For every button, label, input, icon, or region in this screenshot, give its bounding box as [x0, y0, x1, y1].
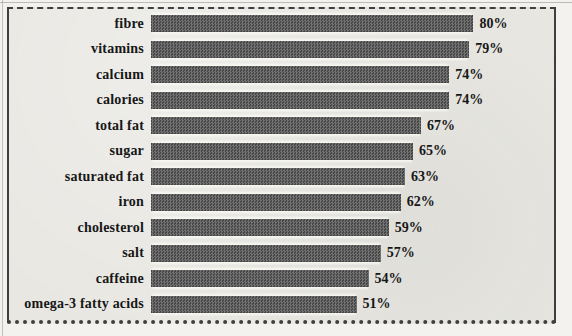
value-label: 54%: [375, 272, 403, 286]
chart-row: calcium 74%: [9, 62, 554, 88]
value-label: 79%: [475, 42, 503, 56]
bar-track: 57%: [151, 241, 554, 267]
scan-artifact-left-line: [2, 0, 3, 336]
chart-row: vitamins 79%: [9, 37, 554, 63]
bar-track: 63%: [151, 164, 554, 190]
bar-track: 51%: [151, 292, 554, 318]
bar: [151, 194, 401, 211]
bar: [151, 41, 469, 58]
category-label: calories: [9, 93, 151, 107]
bar-track: 62%: [151, 190, 554, 216]
chart-row: fibre 80%: [9, 11, 554, 37]
bar-track: 74%: [151, 62, 554, 88]
scan-artifact-top-line: [0, 2, 572, 3]
bar: [151, 168, 405, 185]
category-label: omega-3 fatty acids: [9, 297, 151, 311]
bar: [151, 92, 449, 109]
bar-track: 79%: [151, 37, 554, 63]
bar: [151, 66, 449, 83]
category-label: iron: [9, 195, 151, 209]
value-label: 65%: [419, 144, 447, 158]
value-label: 80%: [479, 17, 507, 31]
category-label: caffeine: [9, 272, 151, 286]
bar-track: 80%: [151, 11, 554, 37]
bar: [151, 219, 389, 236]
value-label: 63%: [411, 170, 439, 184]
chart-row: omega-3 fatty acids 51%: [9, 292, 554, 318]
chart-row: sugar 65%: [9, 139, 554, 165]
chart-rows: fibre 80% vitamins 79% calcium 74% calor…: [9, 9, 554, 320]
category-label: cholesterol: [9, 221, 151, 235]
bar-track: 54%: [151, 266, 554, 292]
value-label: 62%: [407, 195, 435, 209]
bar-track: 59%: [151, 215, 554, 241]
chart-row: iron 62%: [9, 190, 554, 216]
bar: [151, 117, 421, 134]
bar: [151, 143, 413, 160]
bar-track: 74%: [151, 88, 554, 114]
chart-row: saturated fat 63%: [9, 164, 554, 190]
category-label: calcium: [9, 68, 151, 82]
category-label: sugar: [9, 144, 151, 158]
bar-chart: fibre 80% vitamins 79% calcium 74% calor…: [7, 7, 556, 324]
category-label: fibre: [9, 17, 151, 31]
value-label: 59%: [395, 221, 423, 235]
category-label: salt: [9, 246, 151, 260]
value-label: 67%: [427, 119, 455, 133]
value-label: 57%: [387, 246, 415, 260]
category-label: saturated fat: [9, 170, 151, 184]
chart-row: calories 74%: [9, 88, 554, 114]
bar-track: 65%: [151, 139, 554, 165]
chart-row: caffeine 54%: [9, 266, 554, 292]
chart-row: salt 57%: [9, 241, 554, 267]
bar: [151, 270, 369, 287]
value-label: 74%: [455, 68, 483, 82]
bar-track: 67%: [151, 113, 554, 139]
chart-row: cholesterol 59%: [9, 215, 554, 241]
category-label: total fat: [9, 119, 151, 133]
bar: [151, 15, 473, 32]
category-label: vitamins: [9, 42, 151, 56]
chart-row: total fat 67%: [9, 113, 554, 139]
bar: [151, 245, 381, 262]
value-label: 74%: [455, 93, 483, 107]
value-label: 51%: [363, 297, 391, 311]
bar: [151, 296, 357, 313]
